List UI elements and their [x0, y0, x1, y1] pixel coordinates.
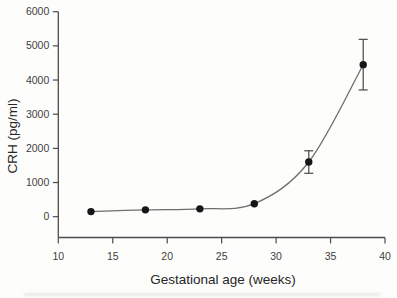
x-tick-label: 25 [216, 250, 228, 262]
plot-area: 101520253035400100020003000400050006000 … [0, 0, 397, 298]
x-tick-label: 40 [379, 250, 391, 262]
y-tick-label: 5000 [26, 39, 50, 51]
data-point [196, 205, 203, 212]
data-point [142, 206, 149, 213]
y-tick-label: 6000 [26, 5, 50, 17]
x-axis-title: Gestational age (weeks) [150, 272, 296, 287]
data-point [360, 61, 367, 68]
x-tick-label: 10 [52, 250, 64, 262]
y-tick-label: 3000 [26, 108, 50, 120]
crh-gestational-age-chart: 101520253035400100020003000400050006000 … [0, 0, 397, 298]
x-tick-label: 30 [270, 250, 282, 262]
y-tick-label: 0 [43, 210, 49, 222]
x-tick-label: 35 [325, 250, 337, 262]
x-tick-label: 20 [161, 250, 173, 262]
x-tick-label: 15 [107, 250, 119, 262]
y-tick-label: 4000 [26, 74, 50, 86]
series-line [91, 65, 363, 212]
y-tick-label: 2000 [26, 142, 50, 154]
data-point [305, 158, 312, 165]
data-point [251, 200, 258, 207]
data-point [87, 208, 94, 215]
y-axis-title: CRH (pg/ml) [5, 98, 20, 173]
y-tick-label: 1000 [26, 176, 50, 188]
plot-generated-layer: 101520253035400100020003000400050006000 [26, 5, 391, 261]
